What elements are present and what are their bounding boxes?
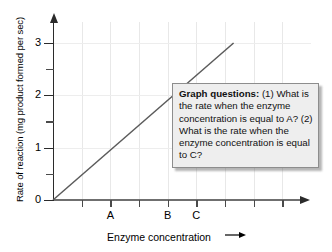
x-axis-title-text: Enzyme concentration [107,231,211,243]
gridline-vertical [110,22,111,200]
x-axis-tick [196,200,197,207]
x-axis-tick [139,200,140,207]
y-axis-tick-label: 0 [26,193,41,205]
up-arrow-icon [50,13,58,23]
x-axis-line [53,199,301,200]
y-axis-tick-label: 3 [26,36,41,48]
x-axis-tick [225,200,226,207]
gridline-horizontal [53,43,311,44]
y-axis-tick-minor [46,174,54,175]
y-axis-tick-label: 2 [26,88,41,100]
gridline-vertical [139,22,140,200]
y-axis-tick [44,200,54,201]
right-arrow-icon [225,229,247,241]
enzyme-rate-chart: Rate of reaction (mg product formed per … [0,0,332,252]
gridline-vertical [168,22,169,200]
x-axis-tick-label: C [188,209,204,221]
y-axis-tick [44,95,54,96]
x-axis-tick [82,200,83,207]
callout-title: Graph questions: [179,88,259,99]
gridline-vertical [82,22,83,200]
x-axis-tick [254,200,255,207]
x-axis-tick-label: B [160,209,176,221]
x-axis-tick [110,200,111,207]
graph-questions-callout: Graph questions: (1) What is the rate wh… [172,83,319,168]
x-axis-title: Enzyme concentration [53,231,301,243]
y-axis-tick-minor [46,69,54,70]
y-axis-tick [44,148,54,149]
y-axis-tick-minor [46,121,54,122]
y-axis-tick-label: 1 [26,141,41,153]
y-axis-tick [44,43,54,44]
x-axis-tick [282,200,283,207]
y-axis-title: Rate of reaction (mg product formed per … [14,5,25,215]
x-axis-tick-label: A [102,209,118,221]
right-arrow-icon [300,196,310,204]
x-axis-tick [168,200,169,207]
